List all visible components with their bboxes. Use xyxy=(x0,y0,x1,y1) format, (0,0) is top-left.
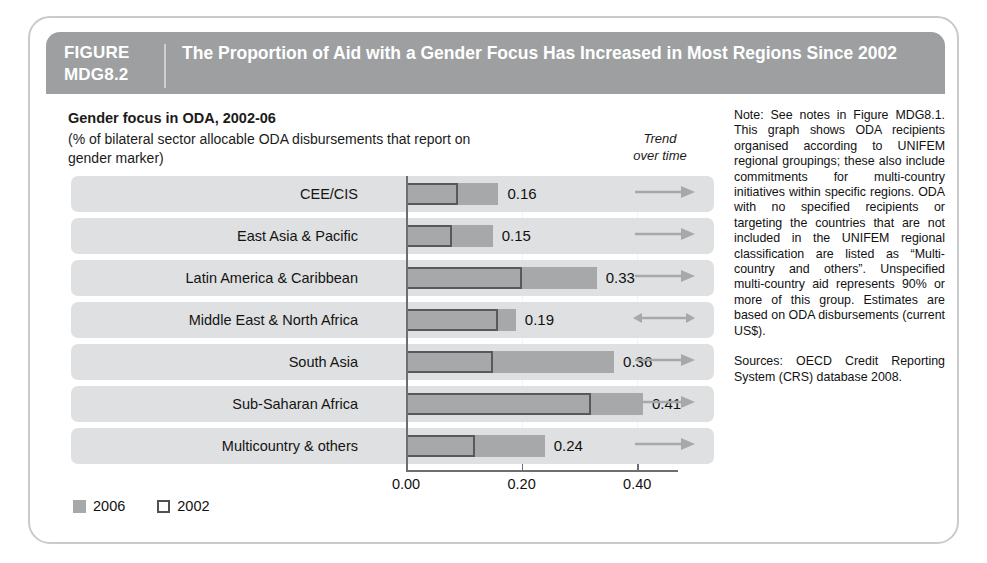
table-row: CEE/CIS0.16 xyxy=(71,176,714,212)
arrow-right-icon xyxy=(633,268,695,288)
table-row: Sub-Saharan Africa0.41 xyxy=(71,386,714,422)
trend-cell xyxy=(618,176,710,212)
arrow-right-icon xyxy=(633,352,695,372)
x-axis-tick xyxy=(522,464,524,471)
bar-value-label: 0.15 xyxy=(502,218,531,254)
x-axis-tick xyxy=(637,464,639,471)
y-axis-line xyxy=(406,176,408,471)
bar-2002 xyxy=(406,435,475,457)
trend-cell xyxy=(618,260,710,296)
category-label: CEE/CIS xyxy=(71,176,367,212)
table-row: Multicountry & others0.24 xyxy=(71,428,714,464)
table-row: East Asia & Pacific0.15 xyxy=(71,218,714,254)
x-axis-tick-label: 0.00 xyxy=(376,476,436,492)
arrow-right-icon xyxy=(633,394,695,414)
trend-header-line1: Trend xyxy=(614,130,706,147)
sources-text: Sources: OECD Credit Reporting System (C… xyxy=(734,354,945,385)
trend-cell xyxy=(618,218,710,254)
category-label: East Asia & Pacific xyxy=(71,218,367,254)
trend-cell xyxy=(618,386,710,422)
x-axis-tick-label: 0.40 xyxy=(607,476,667,492)
trend-cell xyxy=(618,344,710,380)
bar-2002 xyxy=(406,393,591,415)
chart-subtitle: (% of bilateral sector allocable ODA dis… xyxy=(68,130,488,168)
chart-column: Gender focus in ODA, 2002-06 (% of bilat… xyxy=(46,94,722,530)
legend-swatch-outline-icon xyxy=(157,500,170,513)
trend-cell xyxy=(618,302,710,338)
figure-number-line1: FIGURE xyxy=(64,42,164,64)
figure-number: FIGURE MDG8.2 xyxy=(46,42,164,86)
table-row: South Asia0.36 xyxy=(71,344,714,380)
legend-label-2002: 2002 xyxy=(177,498,209,514)
bar-value-label: 0.19 xyxy=(525,302,554,338)
chart-legend: 2006 2002 xyxy=(73,498,210,514)
bar-2002 xyxy=(406,351,493,373)
category-label: Sub-Saharan Africa xyxy=(71,386,367,422)
chart-title: Gender focus in ODA, 2002-06 xyxy=(68,110,276,126)
plot-area: CEE/CIS0.16East Asia & Pacific0.15Latin … xyxy=(46,176,722,476)
table-row: Middle East & North Africa0.19 xyxy=(71,302,714,338)
trend-column-header: Trend over time xyxy=(614,130,706,164)
arrow-right-icon xyxy=(633,226,695,246)
figure-body: Gender focus in ODA, 2002-06 (% of bilat… xyxy=(46,94,945,530)
arrow-right-icon xyxy=(633,184,695,204)
category-label: Latin America & Caribbean xyxy=(71,260,367,296)
figure-title: The Proportion of Aid with a Gender Focu… xyxy=(166,42,945,64)
bar-value-label: 0.16 xyxy=(507,176,536,212)
table-row: Latin America & Caribbean0.33 xyxy=(71,260,714,296)
bar-2002 xyxy=(406,225,452,247)
legend-item-2006: 2006 xyxy=(73,498,125,514)
legend-item-2002: 2002 xyxy=(157,498,209,514)
category-label: South Asia xyxy=(71,344,367,380)
x-axis-tick xyxy=(406,464,408,471)
figure-card: FIGURE MDG8.2 The Proportion of Aid with… xyxy=(28,16,959,544)
arrow-bidirectional-icon xyxy=(633,310,695,330)
bar-2002 xyxy=(406,267,522,289)
arrow-right-icon xyxy=(633,436,695,456)
figure-number-line2: MDG8.2 xyxy=(64,64,164,86)
figure-header: FIGURE MDG8.2 The Proportion of Aid with… xyxy=(46,32,945,94)
bar-2002 xyxy=(406,309,498,331)
legend-label-2006: 2006 xyxy=(93,498,125,514)
notes-column: Note: See notes in Figure MDG8.1. This g… xyxy=(734,108,945,400)
category-label: Multicountry & others xyxy=(71,428,367,464)
trend-header-line2: over time xyxy=(614,147,706,164)
legend-swatch-filled-icon xyxy=(73,500,86,513)
figure-page: FIGURE MDG8.2 The Proportion of Aid with… xyxy=(0,0,987,563)
bar-2002 xyxy=(406,183,458,205)
trend-cell xyxy=(618,428,710,464)
category-label: Middle East & North Africa xyxy=(71,302,367,338)
bar-value-label: 0.24 xyxy=(554,428,583,464)
x-axis-tick-label: 0.20 xyxy=(492,476,552,492)
notes-text: Note: See notes in Figure MDG8.1. This g… xyxy=(734,108,945,339)
